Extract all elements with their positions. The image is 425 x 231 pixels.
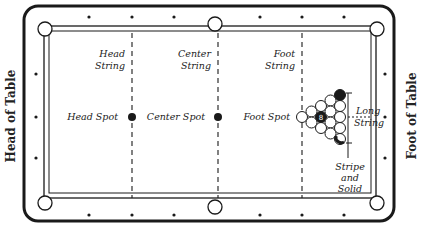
pocket-bottom-right — [370, 196, 384, 210]
long-string-label-2: String — [354, 117, 384, 128]
pocket-bottom-left — [38, 196, 52, 210]
foot-string-label-1: Foot — [273, 48, 296, 59]
foot-spot-label: Foot Spot — [243, 111, 291, 122]
head-of-table-label: Head of Table — [4, 69, 18, 162]
pool-table-diagram: Head String Center String Foot String He… — [0, 0, 425, 231]
foot-string-label-2: String — [265, 60, 295, 71]
center-string-label-2: String — [181, 60, 211, 71]
center-spot-label: Center Spot — [147, 111, 205, 122]
pocket-top-center — [208, 17, 222, 31]
long-string-label-1: Long — [355, 105, 380, 116]
head-string-label-2: String — [95, 60, 125, 71]
head-spot-label: Head Spot — [66, 111, 118, 122]
head-string-label-1: Head — [98, 48, 125, 59]
foot-of-table-label: Foot of Table — [405, 72, 419, 159]
pocket-top-left — [38, 22, 52, 36]
head-spot-marker — [128, 113, 136, 121]
eight-ball-number: 8 — [319, 114, 323, 122]
center-string-label-1: Center — [178, 48, 212, 59]
rack-note-line-3: Solid — [338, 183, 362, 194]
rack-note-line-2: and — [341, 172, 359, 183]
rack-note-line-1: Stripe — [335, 161, 365, 172]
center-spot-marker — [214, 113, 222, 121]
pocket-bottom-center — [208, 200, 222, 214]
pocket-top-right — [370, 22, 384, 36]
